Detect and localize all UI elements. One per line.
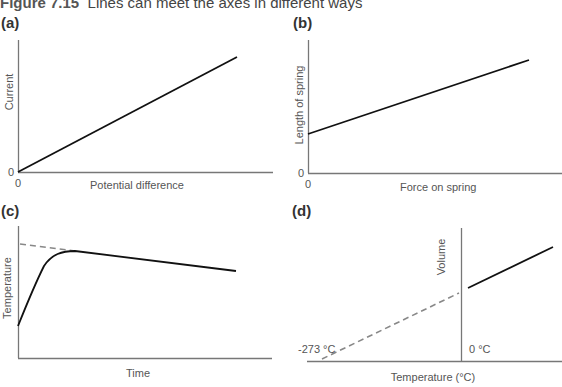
y-axis-label: Length of spring — [293, 66, 305, 145]
chart-c: Time Temperature — [1, 226, 272, 379]
y-axis-label: Current — [3, 74, 15, 111]
extrapolation-line — [20, 244, 75, 251]
absolute-zero-label: -273 °C — [298, 343, 335, 355]
chart-a: 0 0 Potential difference Current — [3, 40, 273, 191]
y-origin-label: 0 — [8, 166, 14, 178]
x-axis-label: Potential difference — [90, 179, 184, 191]
data-line — [18, 57, 237, 172]
x-axis-label: Temperature (°C) — [391, 371, 475, 383]
x-axis-label: Time — [126, 367, 150, 379]
chart-d: -273 °C 0 °C Temperature (°C) Volume — [298, 228, 562, 383]
data-line — [308, 60, 529, 134]
y-axis-label: Volume — [435, 239, 447, 276]
extrapolation-line — [322, 293, 459, 359]
x-origin-label: 0 — [15, 177, 21, 189]
x-axis-label: Force on spring — [400, 181, 476, 193]
figure-canvas: 0 0 Potential difference Current 0 0 For… — [0, 0, 562, 387]
chart-b: 0 0 Force on spring Length of spring — [293, 40, 562, 193]
data-line — [468, 247, 553, 288]
y-origin-label: 0 — [298, 167, 304, 179]
zero-celsius-label: 0 °C — [469, 343, 491, 355]
y-axis-label: Temperature — [1, 257, 13, 319]
x-origin-label: 0 — [305, 178, 311, 190]
data-curve — [18, 251, 236, 326]
